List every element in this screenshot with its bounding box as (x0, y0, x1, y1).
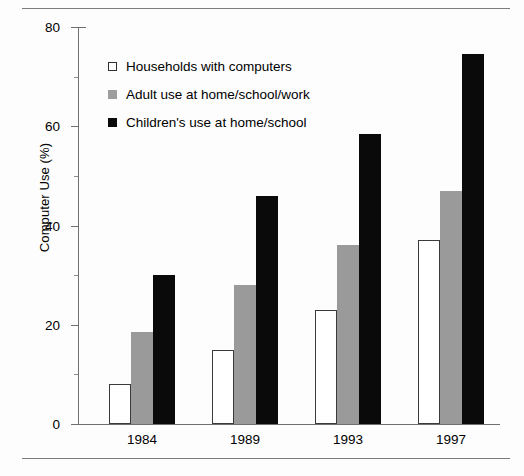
legend-swatch-white-square-icon (108, 62, 117, 71)
x-tick-label-1993: 1993 (333, 432, 363, 447)
bar-1997-children (462, 54, 484, 424)
legend-label-households: Households with computers (126, 59, 292, 74)
y-tick-20: 20 (71, 325, 78, 326)
x-tick-label-1984: 1984 (127, 432, 157, 447)
legend-item-households: Households with computers (108, 56, 310, 77)
y-tick-label-60: 60 (45, 119, 60, 134)
x-axis-line (78, 424, 500, 425)
y-tick-40: 40 (71, 226, 78, 227)
bar-1989-children (256, 196, 278, 424)
legend-swatch-gray-square-icon (108, 90, 117, 99)
x-tick-label-1997: 1997 (436, 432, 466, 447)
x-tick-label-1989: 1989 (230, 432, 260, 447)
legend-label-children: Children's use at home/school (126, 115, 306, 130)
y-tick-80: 80 (71, 27, 78, 28)
legend-item-children: Children's use at home/school (108, 112, 310, 133)
y-tick-label-80: 80 (45, 20, 60, 35)
legend-swatch-black-square-icon (108, 118, 117, 127)
y-minor-tick-30 (74, 275, 78, 276)
y-axis-top-cap (78, 27, 86, 28)
bar-1984-adult (131, 332, 153, 424)
legend-item-adult: Adult use at home/school/work (108, 84, 310, 105)
bar-1993-children (359, 134, 381, 424)
bar-1989-households (212, 350, 234, 424)
bar-1997-adult (440, 191, 462, 424)
bar-1993-households (315, 310, 337, 424)
y-tick-60: 60 (71, 126, 78, 127)
chart-legend: Households with computers Adult use at h… (108, 56, 310, 140)
bar-1984-children (153, 275, 175, 424)
figure-page: Computer Use (%) 0 20 40 60 80 (0, 0, 524, 476)
y-axis-title: Computer Use (%) (37, 118, 52, 278)
bar-group-1993 (315, 27, 381, 424)
bar-1997-households (418, 240, 440, 424)
y-tick-label-0: 0 (52, 417, 60, 432)
bar-group-1997 (418, 27, 484, 424)
bar-1993-adult (337, 245, 359, 424)
y-tick-label-40: 40 (45, 218, 60, 233)
y-minor-tick-70 (74, 77, 78, 78)
bar-1989-adult (234, 285, 256, 424)
legend-label-adult: Adult use at home/school/work (126, 87, 310, 102)
y-minor-tick-10 (74, 374, 78, 375)
y-minor-tick-50 (74, 176, 78, 177)
y-tick-label-20: 20 (45, 317, 60, 332)
y-tick-0: 0 (71, 424, 78, 425)
bar-1984-households (109, 384, 131, 424)
bar-chart: Computer Use (%) 0 20 40 60 80 (0, 0, 524, 476)
y-axis-line (78, 27, 79, 424)
